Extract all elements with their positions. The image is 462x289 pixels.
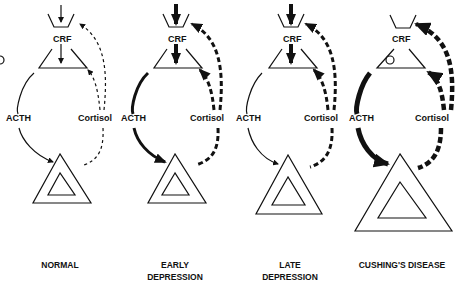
adenoma-circle-icon [386, 56, 394, 64]
cortisol-label-early: Cortisol [190, 113, 224, 123]
caption-cushings-disease: CUSHING'S DISEASE [359, 259, 446, 271]
cortisol-feedback-icon [192, 24, 221, 110]
adrenal-outer-icon [148, 154, 206, 203]
cortisol-feedback-icon [80, 24, 105, 110]
adrenal-inner-icon [272, 177, 305, 205]
acth-arrow-icon [18, 73, 34, 114]
acth-arrow-icon [357, 73, 370, 114]
hpa-axis-diagram: CRF ACTH Cortisol NORMAL CRF ACTH Cortis… [0, 0, 462, 289]
crf-label-cushings: CRF [392, 34, 411, 44]
caption-normal: NORMAL [41, 259, 78, 271]
acth-label-normal: ACTH [6, 113, 31, 123]
cortisol-label-cushings: Cortisol [415, 113, 449, 123]
cortisol-feedback-icon [416, 24, 452, 110]
cortisol-label-normal: Cortisol [78, 113, 112, 123]
pituitary-icon [39, 49, 87, 68]
acth-arrow-icon [247, 73, 262, 114]
cortisol-label-late: Cortisol [304, 113, 338, 123]
adrenal-inner-icon [162, 173, 189, 195]
adrenal-inner-icon [378, 182, 426, 218]
pituitary-icon [377, 49, 425, 68]
cortisol-feedback-icon [306, 24, 335, 110]
adrenal-outer-icon [355, 154, 452, 231]
acth-arrow-icon [133, 73, 148, 114]
crf-label-normal: CRF [53, 34, 72, 44]
adenoma-circle-icon [0, 56, 4, 64]
panel-cushings-disease [0, 15, 452, 231]
caption-late-depression: LATEDEPRESSION [262, 259, 318, 283]
adrenal-inner-icon [48, 173, 75, 195]
acth-label-cushings: ACTH [349, 113, 374, 123]
acth-label-early: ACTH [121, 113, 146, 123]
caption-early-depression: EARLYDEPRESSION [147, 259, 203, 283]
hypothalamus-icon [390, 15, 416, 28]
acth-label-late: ACTH [236, 113, 261, 123]
adrenal-outer-icon [33, 154, 91, 203]
crf-label-early: CRF [168, 34, 187, 44]
crf-label-late: CRF [283, 34, 302, 44]
